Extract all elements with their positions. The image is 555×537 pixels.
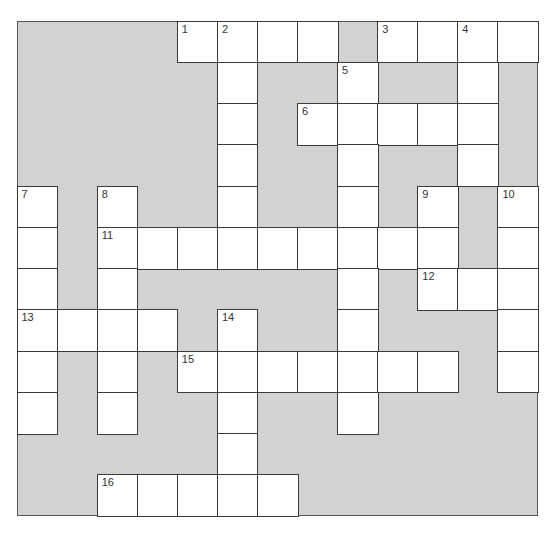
crossword-cell[interactable]: 9 [417, 186, 459, 229]
clue-number: 11 [102, 230, 113, 241]
crossword-cell[interactable] [97, 309, 139, 352]
crossword-cell[interactable] [257, 351, 299, 394]
crossword-cell[interactable] [337, 186, 379, 229]
crossword-cell[interactable] [457, 103, 499, 146]
crossword-cell[interactable]: 4 [457, 21, 499, 64]
crossword-cell[interactable]: 5 [337, 62, 379, 105]
crossword-cell[interactable] [217, 144, 259, 187]
crossword-cell[interactable] [17, 351, 59, 394]
clue-number: 15 [182, 354, 194, 365]
crossword-cell[interactable] [337, 351, 379, 394]
crossword-cell[interactable]: 11 [97, 227, 139, 270]
crossword-cell[interactable] [97, 351, 139, 394]
crossword-cell[interactable] [377, 103, 419, 146]
crossword-cell[interactable]: 8 [97, 186, 139, 229]
clue-number: 3 [382, 24, 388, 35]
crossword-cell[interactable] [177, 227, 219, 270]
crossword-cell[interactable] [217, 186, 259, 229]
crossword-cell[interactable] [297, 227, 339, 270]
crossword-cell[interactable] [217, 62, 259, 105]
clue-number: 8 [102, 189, 108, 200]
crossword-cell[interactable] [217, 227, 259, 270]
crossword-cell[interactable] [297, 21, 339, 64]
crossword-grid: 12345678910111213141516 [17, 21, 538, 516]
crossword-cell[interactable] [17, 268, 59, 311]
crossword-cell[interactable]: 2 [217, 21, 259, 64]
crossword-cell[interactable] [337, 227, 379, 270]
crossword-cell[interactable] [217, 433, 259, 476]
crossword-cell[interactable]: 15 [177, 351, 219, 394]
clue-number: 7 [22, 189, 28, 200]
crossword-cell[interactable]: 10 [497, 186, 539, 229]
crossword-cell[interactable] [457, 268, 499, 311]
crossword-cell[interactable] [417, 351, 459, 394]
crossword-cell[interactable] [337, 392, 379, 435]
crossword-cell[interactable] [257, 474, 299, 517]
crossword-cell[interactable] [297, 351, 339, 394]
clue-number: 1 [182, 24, 188, 35]
crossword-cell[interactable] [217, 351, 259, 394]
clue-number: 13 [22, 312, 34, 323]
crossword-cell[interactable] [497, 309, 539, 352]
clue-number: 6 [302, 106, 308, 117]
clue-number: 2 [222, 24, 228, 35]
crossword-cell[interactable] [377, 227, 419, 270]
clue-number: 4 [462, 24, 468, 35]
clue-number: 10 [502, 189, 514, 200]
clue-number: 5 [342, 65, 348, 76]
crossword-cell[interactable] [217, 103, 259, 146]
crossword-cell[interactable] [137, 309, 179, 352]
crossword-cell[interactable] [337, 103, 379, 146]
crossword-cell[interactable] [417, 21, 459, 64]
crossword-cell[interactable] [257, 227, 299, 270]
clue-number: 14 [222, 312, 234, 323]
crossword-cell[interactable] [17, 392, 59, 435]
crossword-cell[interactable] [417, 227, 459, 270]
crossword-cell[interactable] [457, 144, 499, 187]
clue-number: 9 [422, 189, 428, 200]
crossword-cell[interactable] [97, 392, 139, 435]
crossword-cell[interactable] [57, 309, 99, 352]
crossword-cell[interactable]: 3 [377, 21, 419, 64]
crossword-cell[interactable] [377, 351, 419, 394]
crossword-cell[interactable] [417, 103, 459, 146]
crossword-cell[interactable] [337, 144, 379, 187]
clue-number: 16 [102, 477, 114, 488]
crossword-cell[interactable] [497, 268, 539, 311]
crossword-cell[interactable] [497, 227, 539, 270]
crossword-cell[interactable] [497, 351, 539, 394]
clue-number: 12 [422, 271, 434, 282]
crossword-cell[interactable] [217, 474, 259, 517]
crossword-cell[interactable] [497, 21, 539, 64]
crossword-cell[interactable] [177, 474, 219, 517]
crossword-cell[interactable] [457, 62, 499, 105]
crossword-cell[interactable] [137, 474, 179, 517]
crossword-cell[interactable]: 16 [97, 474, 139, 517]
crossword-cell[interactable]: 6 [297, 103, 339, 146]
crossword-cell[interactable] [257, 21, 299, 64]
crossword-cell[interactable]: 1 [177, 21, 219, 64]
crossword-cell[interactable] [217, 392, 259, 435]
crossword-cell[interactable]: 14 [217, 309, 259, 352]
crossword-cell[interactable] [337, 309, 379, 352]
crossword-cell[interactable]: 7 [17, 186, 59, 229]
crossword-cell[interactable]: 12 [417, 268, 459, 311]
crossword-cell[interactable] [17, 227, 59, 270]
crossword-cell[interactable] [97, 268, 139, 311]
crossword-cell[interactable]: 13 [17, 309, 59, 352]
crossword-cell[interactable] [337, 268, 379, 311]
crossword-cell[interactable] [137, 227, 179, 270]
